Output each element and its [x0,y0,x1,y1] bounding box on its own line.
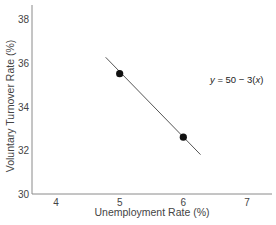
x-tick-label: 4 [53,197,59,208]
x-tick-label: 7 [244,197,250,208]
data-point [180,134,187,141]
y-tick-label: 34 [18,102,30,113]
y-tick-labels: 3032343638 [18,14,30,200]
equation-label: y = 50 − 3(x) [209,74,263,85]
y-tick-label: 36 [18,58,30,69]
y-tick-label: 32 [18,145,30,156]
x-axis-label: Unemployment Rate (%) [95,206,210,218]
chart: 3032343638 4567 y = 50 − 3(x) Unemployme… [0,0,276,225]
data-point [116,70,123,77]
y-tick-label: 38 [18,14,30,25]
y-axis-label: Voluntary Turnover Rate (%) [4,40,16,172]
y-tick-label: 30 [18,189,30,200]
